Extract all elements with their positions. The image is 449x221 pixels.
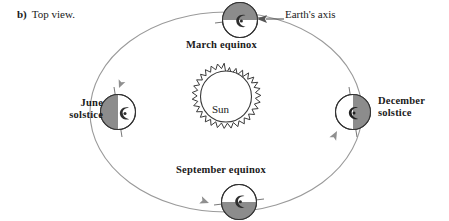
label-december-line-2: solstice (378, 107, 425, 119)
earth-axis-leader-arrow (257, 15, 267, 23)
label-december-line-1: December (378, 95, 425, 107)
earth-june-solstice (101, 87, 136, 137)
top-view-orbit-figure: b) Top view. (0, 0, 449, 221)
earth-september-equinox (214, 185, 264, 220)
sun-label: Sun (212, 103, 229, 115)
label-june-line-1: June (57, 97, 103, 109)
label-september-equinox: September equinox (176, 164, 266, 176)
orbit-arrow-toward-june (116, 79, 126, 89)
earth-axis-leader (257, 15, 284, 23)
label-december-solstice: December solstice (378, 95, 425, 119)
earth-march-equinox (215, 3, 265, 38)
label-june-line-2: solstice (57, 109, 103, 121)
label-june-solstice: June solstice (57, 97, 103, 121)
orbit-arrow-toward-december (329, 129, 340, 141)
label-march-equinox: March equinox (186, 39, 257, 51)
label-earths-axis: Earth's axis (285, 8, 336, 20)
sun-group (192, 63, 261, 128)
orbit-arrow-toward-september (199, 196, 210, 206)
earth-december-solstice (336, 87, 371, 137)
